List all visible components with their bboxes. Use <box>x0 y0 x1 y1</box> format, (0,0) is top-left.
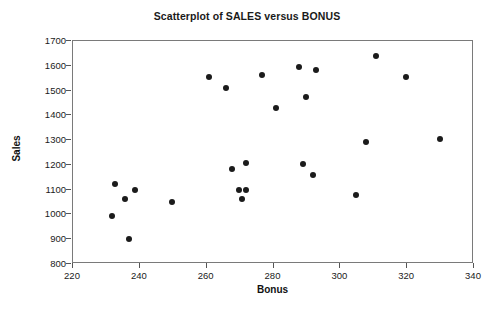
y-tick-mark <box>66 139 71 140</box>
y-tick-label: 1200 <box>32 158 66 169</box>
y-tick-label: 1100 <box>32 183 66 194</box>
x-tick-mark <box>139 263 140 268</box>
y-tick-label: 1000 <box>32 208 66 219</box>
y-tick-label: 1400 <box>32 109 66 120</box>
x-tick-mark <box>206 263 207 268</box>
y-tick-mark <box>66 213 71 214</box>
x-tick-mark <box>339 263 340 268</box>
x-tick-label: 340 <box>453 270 493 281</box>
x-tick-label: 240 <box>119 270 159 281</box>
x-tick-label: 320 <box>386 270 426 281</box>
x-tick-label: 220 <box>52 270 92 281</box>
y-tick-mark <box>66 164 71 165</box>
x-tick-mark <box>406 263 407 268</box>
y-tick-mark <box>66 40 71 41</box>
x-tick-mark <box>273 263 274 268</box>
y-axis-tick-labels: 80090010001100120013001400150016001700 <box>27 40 66 263</box>
y-tick-mark <box>66 263 71 264</box>
y-tick-label: 900 <box>32 233 66 244</box>
y-axis-title: Sales <box>11 119 22 179</box>
chart-title: Scatterplot of SALES versus BONUS <box>0 10 494 22</box>
plot-area-frame <box>72 40 473 263</box>
y-tick-mark <box>66 189 71 190</box>
x-axis-title: Bonus <box>72 284 473 295</box>
y-tick-label: 1700 <box>32 35 66 46</box>
x-tick-label: 260 <box>186 270 226 281</box>
x-tick-mark <box>473 263 474 268</box>
x-tick-label: 280 <box>253 270 293 281</box>
y-tick-mark <box>66 238 71 239</box>
x-tick-label: 300 <box>319 270 359 281</box>
y-tick-label: 800 <box>32 258 66 269</box>
y-tick-mark <box>66 114 71 115</box>
x-tick-mark <box>72 263 73 268</box>
y-tick-label: 1500 <box>32 84 66 95</box>
scatterplot-figure: Scatterplot of SALES versus BONUS Sales … <box>0 0 494 313</box>
y-tick-label: 1600 <box>32 59 66 70</box>
y-tick-mark <box>66 90 71 91</box>
y-tick-mark <box>66 65 71 66</box>
y-tick-label: 1300 <box>32 134 66 145</box>
